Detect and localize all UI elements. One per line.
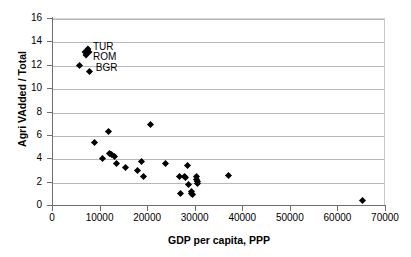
y-axis-title: Agri VAdded / Total bbox=[16, 14, 28, 184]
data-point bbox=[105, 128, 112, 135]
scatter-chart: Agri VAdded / Total GDP per capita, PPP … bbox=[0, 0, 411, 257]
y-tick-label: 0 bbox=[36, 200, 42, 210]
x-tick-mark bbox=[147, 206, 148, 211]
y-tick-mark bbox=[47, 88, 52, 89]
data-point bbox=[184, 162, 191, 169]
data-point bbox=[224, 172, 231, 179]
y-tick-label: 14 bbox=[31, 36, 42, 46]
y-axis-line bbox=[52, 17, 53, 206]
y-tick-label: 6 bbox=[36, 130, 42, 140]
y-tick-label: 2 bbox=[36, 177, 42, 187]
data-point bbox=[189, 191, 196, 198]
x-tick-mark bbox=[52, 206, 53, 211]
data-point bbox=[113, 160, 120, 167]
x-tick-mark bbox=[385, 206, 386, 211]
point-annotation: ROM bbox=[93, 52, 116, 63]
x-axis-title: GDP per capita, PPP bbox=[52, 234, 386, 246]
gridline-y bbox=[52, 89, 384, 90]
y-tick-mark bbox=[47, 182, 52, 183]
data-point bbox=[86, 67, 93, 74]
y-tick-mark bbox=[47, 158, 52, 159]
point-annotation: BGR bbox=[96, 63, 118, 74]
gridline-y bbox=[52, 113, 384, 114]
y-tick-label: 12 bbox=[31, 60, 42, 70]
x-tick-mark bbox=[195, 206, 196, 211]
x-tick-mark bbox=[337, 206, 338, 211]
data-point bbox=[147, 121, 154, 128]
y-tick-mark bbox=[47, 112, 52, 113]
data-point bbox=[359, 197, 366, 204]
y-tick-mark bbox=[47, 41, 52, 42]
data-point bbox=[122, 164, 129, 171]
data-point bbox=[76, 62, 83, 69]
y-tick-mark bbox=[47, 18, 52, 19]
y-tick-label: 8 bbox=[36, 107, 42, 117]
x-tick-mark bbox=[242, 206, 243, 211]
gridline-y bbox=[52, 136, 384, 137]
y-tick-mark bbox=[47, 135, 52, 136]
data-point bbox=[134, 167, 141, 174]
y-tick-label: 10 bbox=[31, 83, 42, 93]
x-tick-mark bbox=[100, 206, 101, 211]
data-point bbox=[162, 160, 169, 167]
y-tick-label: 4 bbox=[36, 153, 42, 163]
y-tick-label: 16 bbox=[31, 13, 42, 23]
x-tick-label: 70000 bbox=[355, 213, 411, 223]
data-point bbox=[177, 190, 184, 197]
data-point bbox=[91, 139, 98, 146]
x-axis-line bbox=[52, 205, 386, 206]
data-point bbox=[140, 173, 147, 180]
x-tick-mark bbox=[290, 206, 291, 211]
data-point bbox=[99, 155, 106, 162]
gridline-y bbox=[52, 183, 384, 184]
gridline-y bbox=[52, 19, 384, 20]
y-tick-mark bbox=[47, 65, 52, 66]
